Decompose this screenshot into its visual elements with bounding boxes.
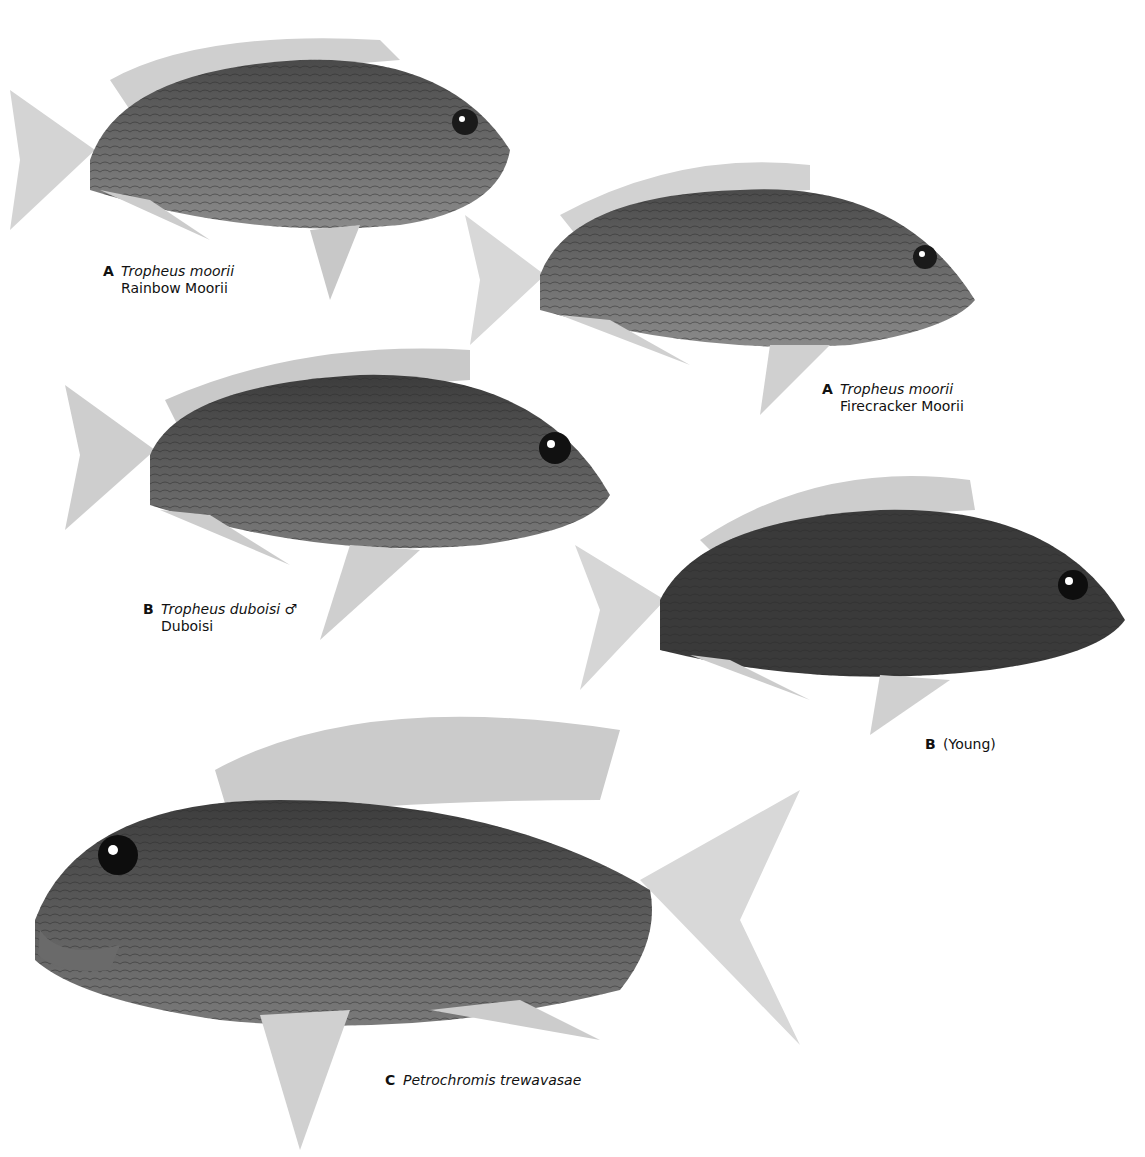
caption-fish-c: CPetrochromis trewavasae	[385, 1072, 581, 1089]
fish-b2-illustration	[575, 476, 1125, 735]
male-symbol: ♂	[285, 601, 298, 617]
common-name: Rainbow Moorii	[103, 280, 234, 297]
caption-fish-a1: ATropheus moorii Rainbow Moorii	[103, 263, 234, 297]
scientific-name: Tropheus moorii	[840, 381, 953, 397]
fish-illustrations	[0, 0, 1145, 1157]
caption-fish-b2: B(Young)	[925, 736, 996, 753]
plate-letter: A	[822, 381, 840, 398]
fish-a1-illustration	[10, 38, 510, 300]
common-name: Duboisi	[143, 618, 297, 635]
scientific-name: Petrochromis trewavasae	[403, 1072, 581, 1088]
fish-b1-illustration	[65, 349, 610, 640]
common-name: Firecracker Moorii	[822, 398, 964, 415]
fish-a2-illustration	[465, 162, 975, 415]
caption-fish-b1: BTropheus duboisi ♂ Duboisi	[143, 601, 297, 635]
plate-letter: B	[143, 601, 161, 618]
common-name: (Young)	[943, 736, 996, 752]
plate-letter: C	[385, 1072, 403, 1089]
scientific-name: Tropheus duboisi	[161, 601, 280, 617]
plate-letter: B	[925, 736, 943, 753]
plate-letter: A	[103, 263, 121, 280]
scientific-name: Tropheus moorii	[121, 263, 234, 279]
caption-fish-a2: ATropheus moorii Firecracker Moorii	[822, 381, 964, 415]
